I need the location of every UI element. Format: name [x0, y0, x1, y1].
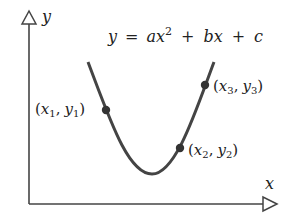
y-axis-arrow-icon — [22, 11, 36, 24]
point-1-marker — [102, 106, 110, 114]
point-1-label: (x1,y1) — [35, 100, 85, 119]
point-3-marker — [201, 81, 209, 89]
x-axis-arrow-icon — [263, 197, 277, 211]
point-2-label: (x2,y2) — [188, 141, 238, 160]
parabola-diagram: y x y = ax2 + bx + c (x1,y1) (x2,y2) (x3… — [0, 0, 285, 216]
point-3-label: (x3,y3) — [213, 77, 263, 96]
equation: y = ax2 + bx + c — [107, 21, 263, 46]
point-2-marker — [176, 144, 184, 152]
y-axis-label: y — [41, 7, 52, 26]
x-axis-label: x — [265, 174, 274, 193]
